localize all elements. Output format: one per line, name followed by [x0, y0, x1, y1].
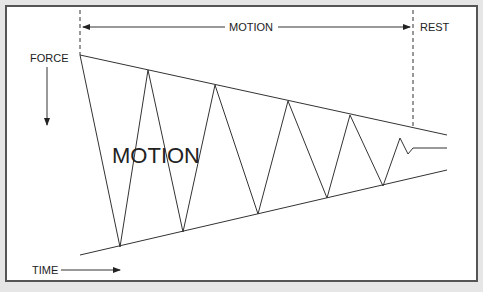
motion-span-label: MOTION — [229, 21, 273, 33]
lower-envelope-line — [80, 170, 447, 255]
rest-label: REST — [420, 21, 450, 33]
damped-oscillation-diagram: MOTION REST FORCE TIME MOTION — [0, 0, 483, 292]
force-label: FORCE — [30, 52, 69, 64]
time-label: TIME — [32, 264, 58, 276]
motion-center-label: MOTION — [112, 143, 200, 168]
upper-envelope-line — [80, 55, 447, 135]
